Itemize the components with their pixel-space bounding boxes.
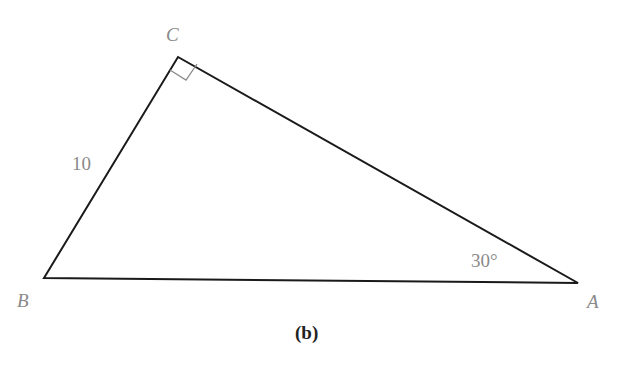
figure-caption: (b) [295, 322, 318, 344]
vertex-label-a: A [587, 291, 599, 313]
vertex-label-c: C [166, 24, 179, 46]
angle-label-a: 30° [471, 250, 498, 272]
vertex-label-b: B [17, 290, 29, 312]
triangle-abc [44, 57, 578, 283]
side-length-bc: 10 [72, 153, 91, 175]
triangle-figure [0, 0, 625, 369]
